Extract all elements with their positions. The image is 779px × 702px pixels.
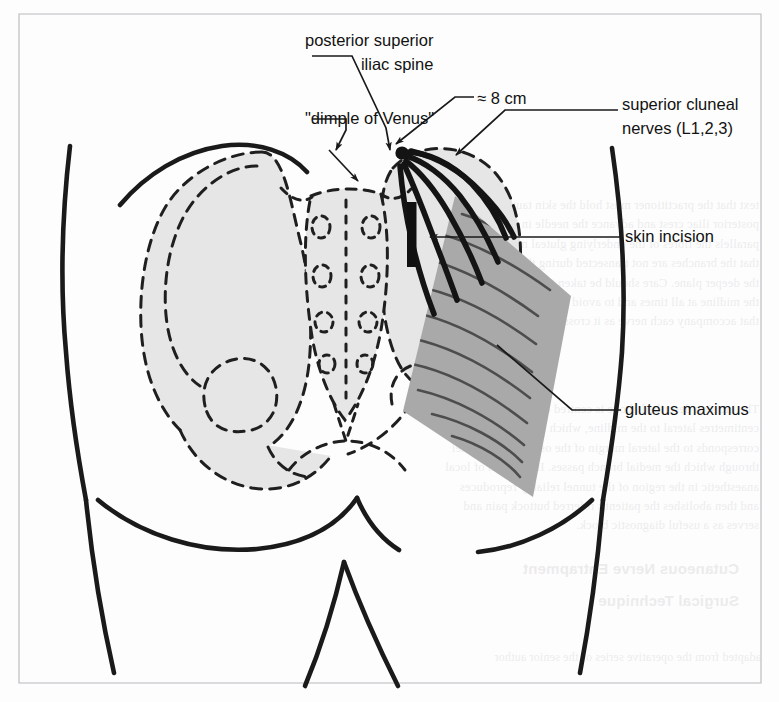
crotch-apex-right [344, 562, 398, 686]
label-cluneal-line1: superior cluneal [622, 95, 738, 113]
skin-incision-bar [407, 202, 417, 267]
label-gluteus: gluteus maximus [625, 400, 749, 418]
right-flank-contour [603, 148, 624, 500]
right-thigh-lateral [580, 500, 603, 673]
label-psis-line1: posterior superior [305, 31, 434, 49]
crotch-apex-left [305, 562, 344, 686]
anatomical-diagram: posterior superior iliac spine "dimple o… [0, 0, 779, 702]
label-dimple: "dimple of Venus" [305, 109, 434, 127]
leader-dimple-secondary [329, 150, 358, 181]
label-psis-line2: iliac spine [361, 55, 433, 73]
label-incision: skin incision [625, 227, 714, 245]
left-thigh-lateral [86, 500, 114, 673]
skin-incision-marker [407, 202, 417, 267]
gluteal-fold-left [98, 498, 357, 550]
gluteal-fold-right [478, 500, 592, 552]
label-cluneal-line2: nerves (L1,2,3) [622, 119, 733, 137]
figure-root: Cutaneous Nerve Entrapment Surgical Tech… [0, 0, 779, 702]
label-measurement: ≈ 8 cm [477, 89, 526, 107]
cluneal-nerve-origin-node [395, 146, 408, 159]
natal-cleft [357, 498, 399, 550]
left-flank-contour [63, 146, 86, 500]
leader-cluneal [456, 110, 618, 155]
